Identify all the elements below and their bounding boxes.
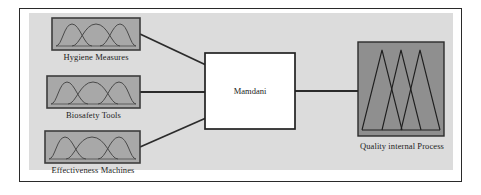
input-1-frame <box>52 18 140 50</box>
inference-engine-label: Mamdani <box>205 86 295 96</box>
output-box-quality-internal-process[interactable] <box>358 42 444 136</box>
input-2-label: Biosafety Tools <box>47 110 140 120</box>
input-box-biosafety-tools[interactable] <box>47 76 140 108</box>
input-box-effectiveness-machines[interactable] <box>45 131 140 163</box>
input-2-frame <box>47 76 140 108</box>
output-label: Quality internal Process <box>352 141 452 151</box>
conn-input3-engine <box>140 118 206 147</box>
diagram-canvas: Hygiene Measures Biosafety Tools Effecti… <box>0 0 481 195</box>
input-1-label: Hygiene Measures <box>52 52 140 62</box>
output-frame <box>358 42 444 136</box>
input-box-hygiene-measures[interactable] <box>52 18 140 50</box>
conn-input1-engine <box>140 34 206 65</box>
input-3-frame <box>45 131 140 163</box>
input-3-label: Effectiveness Machines <box>38 165 148 175</box>
